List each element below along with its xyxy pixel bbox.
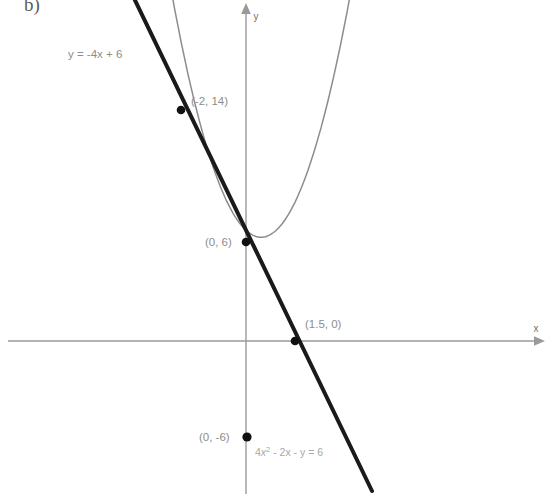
parabola-equation-label: 4x2 - 2x - y = 6: [255, 445, 323, 458]
y-axis-label: y: [254, 11, 259, 22]
points-group: (-2, 14) (0, 6) (1.5, 0) (0, -6): [177, 95, 342, 443]
axes-group: x y: [8, 3, 545, 494]
graph-figure: x y (-2, 14) (0, 6) (1.5, 0) (0, -6) y =…: [0, 0, 558, 499]
point-label-d: (0, -6): [199, 431, 230, 443]
linear-function-line: [132, 0, 373, 491]
line-equation-label: y = -4x + 6: [68, 48, 122, 60]
point-marker-b: [242, 238, 251, 247]
y-axis-arrowhead: [241, 3, 251, 14]
point-marker-c: [291, 337, 300, 346]
x-axis-arrowhead: [534, 336, 545, 346]
point-label-a: (-2, 14): [191, 95, 228, 107]
point-marker-d: [242, 432, 251, 441]
point-marker-a: [177, 106, 186, 115]
line-group: [132, 0, 373, 491]
equation-labels-group: y = -4x + 6 4x2 - 2x - y = 6: [68, 48, 323, 458]
x-axis-label: x: [534, 323, 539, 334]
point-label-c: (1.5, 0): [305, 318, 342, 330]
point-label-b: (0, 6): [205, 236, 232, 248]
parabola-eq-rest: - 2x - y = 6: [270, 446, 323, 458]
